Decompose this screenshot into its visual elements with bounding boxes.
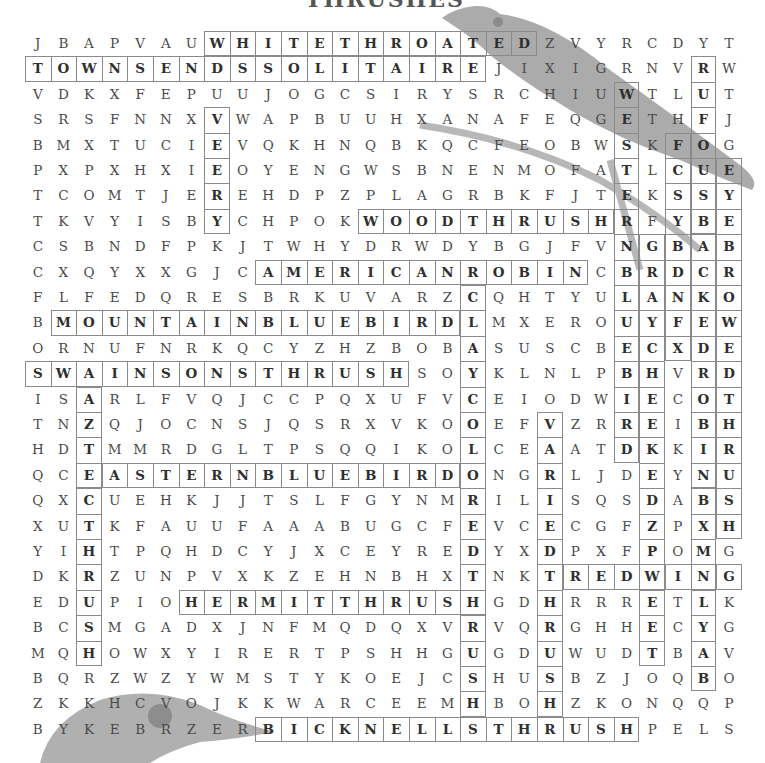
grid-cell[interactable]: C [460, 285, 486, 310]
grid-cell[interactable]: U [332, 361, 358, 386]
grid-cell[interactable]: Y [102, 260, 128, 285]
grid-cell[interactable]: Y [204, 209, 230, 234]
grid-cell[interactable]: K [76, 717, 102, 742]
grid-cell[interactable]: J [204, 260, 230, 285]
grid-cell[interactable]: X [51, 260, 77, 285]
grid-cell[interactable]: B [486, 234, 512, 259]
grid-cell[interactable]: N [691, 463, 717, 488]
grid-cell[interactable]: J [716, 107, 742, 132]
grid-cell[interactable]: H [179, 590, 205, 615]
grid-cell[interactable]: K [76, 82, 102, 107]
grid-cell[interactable]: R [563, 564, 589, 589]
grid-cell[interactable]: G [588, 107, 614, 132]
grid-cell[interactable]: W [281, 691, 307, 716]
grid-cell[interactable]: S [383, 158, 409, 183]
grid-cell[interactable]: R [486, 82, 512, 107]
grid-cell[interactable]: E [76, 463, 102, 488]
grid-cell[interactable]: S [614, 488, 640, 513]
grid-cell[interactable]: N [409, 488, 435, 513]
grid-cell[interactable]: Z [332, 183, 358, 208]
grid-cell[interactable]: T [665, 590, 691, 615]
grid-cell[interactable]: S [409, 361, 435, 386]
grid-cell[interactable]: F [76, 285, 102, 310]
grid-cell[interactable]: V [716, 641, 742, 666]
grid-cell[interactable]: T [307, 641, 333, 666]
grid-cell[interactable]: W [51, 361, 77, 386]
grid-cell[interactable]: R [153, 717, 179, 742]
grid-cell[interactable]: E [639, 412, 665, 437]
grid-cell[interactable]: J [409, 666, 435, 691]
grid-cell[interactable]: O [153, 590, 179, 615]
grid-cell[interactable]: U [383, 387, 409, 412]
grid-cell[interactable]: X [409, 615, 435, 640]
grid-cell[interactable]: R [614, 412, 640, 437]
grid-cell[interactable]: X [665, 336, 691, 361]
grid-cell[interactable]: I [614, 387, 640, 412]
grid-cell[interactable]: B [691, 488, 717, 513]
grid-cell[interactable]: E [537, 514, 563, 539]
grid-cell[interactable]: I [409, 56, 435, 81]
grid-cell[interactable]: R [383, 234, 409, 259]
grid-cell[interactable]: A [255, 260, 281, 285]
grid-cell[interactable]: E [383, 666, 409, 691]
grid-cell[interactable]: H [537, 590, 563, 615]
grid-cell[interactable]: S [716, 488, 742, 513]
grid-cell[interactable]: N [563, 260, 589, 285]
grid-cell[interactable]: M [51, 310, 77, 335]
grid-cell[interactable]: K [409, 133, 435, 158]
grid-cell[interactable]: B [486, 691, 512, 716]
grid-cell[interactable]: E [332, 463, 358, 488]
grid-cell[interactable]: X [51, 158, 77, 183]
grid-cell[interactable]: K [639, 437, 665, 462]
grid-cell[interactable]: P [665, 514, 691, 539]
grid-cell[interactable]: R [383, 590, 409, 615]
grid-cell[interactable]: U [307, 310, 333, 335]
grid-cell[interactable]: T [281, 666, 307, 691]
grid-cell[interactable]: U [511, 666, 537, 691]
grid-cell[interactable]: Z [563, 691, 589, 716]
grid-cell[interactable]: T [358, 56, 384, 81]
grid-cell[interactable]: F [102, 107, 128, 132]
grid-cell[interactable]: S [76, 615, 102, 640]
grid-cell[interactable]: D [435, 234, 461, 259]
grid-cell[interactable]: T [153, 310, 179, 335]
grid-cell[interactable]: H [25, 437, 51, 462]
grid-cell[interactable]: H [486, 666, 512, 691]
grid-cell[interactable]: B [255, 717, 281, 742]
grid-cell[interactable]: T [486, 717, 512, 742]
grid-cell[interactable]: K [486, 361, 512, 386]
grid-cell[interactable]: T [255, 361, 281, 386]
grid-cell[interactable]: W [204, 666, 230, 691]
grid-cell[interactable]: T [25, 209, 51, 234]
grid-cell[interactable]: R [614, 56, 640, 81]
grid-cell[interactable]: U [563, 717, 589, 742]
grid-cell[interactable]: L [460, 310, 486, 335]
grid-cell[interactable]: M [255, 590, 281, 615]
grid-cell[interactable]: T [255, 234, 281, 259]
grid-cell[interactable]: K [307, 285, 333, 310]
grid-cell[interactable]: N [435, 158, 461, 183]
grid-cell[interactable]: T [255, 488, 281, 513]
grid-cell[interactable]: D [665, 31, 691, 56]
grid-cell[interactable]: O [691, 133, 717, 158]
grid-cell[interactable]: C [25, 260, 51, 285]
grid-cell[interactable]: V [486, 514, 512, 539]
grid-cell[interactable]: U [332, 285, 358, 310]
grid-cell[interactable]: I [179, 133, 205, 158]
grid-cell[interactable]: T [255, 437, 281, 462]
grid-cell[interactable]: S [76, 107, 102, 132]
grid-cell[interactable]: H [511, 285, 537, 310]
grid-cell[interactable]: C [307, 717, 333, 742]
grid-cell[interactable]: D [614, 641, 640, 666]
grid-cell[interactable]: B [255, 285, 281, 310]
grid-cell[interactable]: R [409, 285, 435, 310]
grid-cell[interactable]: Q [255, 133, 281, 158]
grid-cell[interactable]: T [588, 437, 614, 462]
grid-cell[interactable]: R [716, 437, 742, 462]
grid-cell[interactable]: T [332, 31, 358, 56]
grid-cell[interactable]: D [127, 234, 153, 259]
grid-cell[interactable]: D [127, 285, 153, 310]
grid-cell[interactable]: J [255, 82, 281, 107]
grid-cell[interactable]: E [307, 564, 333, 589]
grid-cell[interactable]: B [665, 234, 691, 259]
